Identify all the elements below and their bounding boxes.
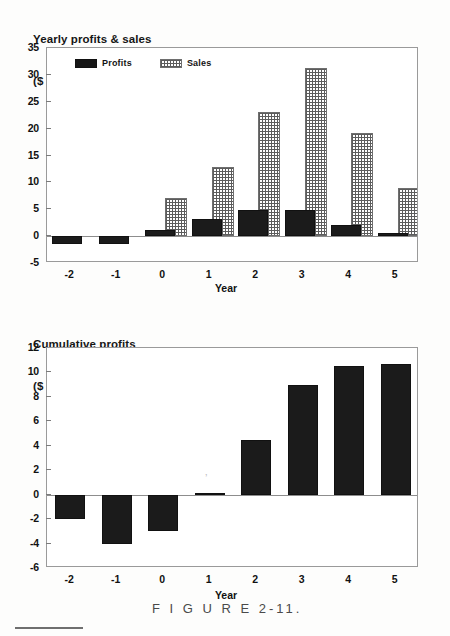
plot-area-yearly bbox=[47, 48, 417, 261]
bar-profits bbox=[148, 495, 178, 532]
plot-area-cumulative: ’ bbox=[47, 348, 417, 566]
y-tick-label: 2 bbox=[6, 463, 39, 475]
y-tick-label: 20 bbox=[6, 122, 39, 134]
y-tick-label: 0 bbox=[6, 488, 39, 500]
y-tick bbox=[46, 101, 51, 102]
x-tick-label: 3 bbox=[282, 573, 322, 585]
bar-profits bbox=[285, 210, 315, 236]
y-tick-label: 10 bbox=[6, 175, 39, 187]
footer-rule bbox=[15, 627, 83, 629]
y-tick-label: -5 bbox=[6, 256, 39, 268]
legend-swatch-sales-icon bbox=[160, 59, 182, 68]
y-tick bbox=[46, 155, 51, 156]
figure-caption: F I G U R E 2-11. bbox=[152, 601, 302, 616]
bar-profits bbox=[238, 210, 268, 236]
y-tick bbox=[46, 181, 51, 182]
y-tick bbox=[46, 371, 51, 372]
y-tick bbox=[46, 543, 51, 544]
y-tick bbox=[46, 208, 51, 209]
y-tick-label: 30 bbox=[6, 68, 39, 80]
y-tick bbox=[46, 128, 51, 129]
y-tick-label: -2 bbox=[6, 512, 39, 524]
bar-sales bbox=[398, 188, 417, 236]
x-tick-label: -1 bbox=[96, 268, 136, 280]
page-smudge-mark: ’ bbox=[205, 472, 207, 484]
legend-item-sales: Sales bbox=[160, 58, 212, 68]
x-axis-title-yearly: Year bbox=[186, 282, 266, 294]
bar-profits bbox=[378, 233, 408, 236]
bar-profits bbox=[192, 219, 222, 236]
x-tick-label: 5 bbox=[375, 268, 415, 280]
bar-profits bbox=[241, 440, 271, 495]
legend-yearly: Profits Sales bbox=[75, 58, 211, 68]
x-tick-label: 1 bbox=[189, 268, 229, 280]
y-tick-label: 12 bbox=[6, 341, 39, 353]
x-tick-label: -2 bbox=[49, 268, 89, 280]
bar-sales bbox=[351, 133, 373, 236]
bar-profits bbox=[52, 236, 82, 244]
y-tick bbox=[46, 235, 51, 236]
x-tick-label: 1 bbox=[189, 573, 229, 585]
x-tick-label: 0 bbox=[142, 268, 182, 280]
bar-profits bbox=[145, 230, 175, 236]
y-tick-label: 0 bbox=[6, 229, 39, 241]
y-tick-label: 8 bbox=[6, 390, 39, 402]
y-tick bbox=[46, 469, 51, 470]
y-tick-label: 35 bbox=[6, 41, 39, 53]
plot-frame-yearly bbox=[46, 47, 418, 262]
x-tick-label: 2 bbox=[235, 573, 275, 585]
chart-title-line1: Yearly profits & sales bbox=[33, 32, 152, 46]
y-tick-label: 5 bbox=[6, 202, 39, 214]
bar-profits bbox=[381, 364, 411, 495]
x-tick-label: 3 bbox=[282, 268, 322, 280]
legend-item-profits: Profits bbox=[75, 58, 132, 68]
x-tick-label: 4 bbox=[328, 268, 368, 280]
figure-page: Yearly profits & sales ($ millions) Prof… bbox=[0, 0, 450, 636]
y-tick bbox=[46, 494, 51, 495]
bar-profits bbox=[331, 225, 361, 236]
bar-profits bbox=[99, 236, 129, 244]
legend-swatch-profits-icon bbox=[75, 59, 97, 68]
y-tick-label: -6 bbox=[6, 561, 39, 573]
x-tick-label: -1 bbox=[96, 573, 136, 585]
legend-label-profits: Profits bbox=[102, 58, 132, 68]
x-tick-label: 2 bbox=[235, 268, 275, 280]
y-tick-label: 10 bbox=[6, 365, 39, 377]
bar-profits bbox=[334, 366, 364, 494]
chart-cumulative-profits: Cumulative profits ($ millions) ’ -6-4-2… bbox=[0, 300, 450, 600]
x-tick-label: -2 bbox=[49, 573, 89, 585]
x-tick-label: 5 bbox=[375, 573, 415, 585]
y-tick-label: -4 bbox=[6, 537, 39, 549]
y-tick bbox=[46, 445, 51, 446]
bar-profits bbox=[55, 495, 85, 519]
y-tick bbox=[46, 518, 51, 519]
bar-profits bbox=[195, 493, 225, 495]
y-tick bbox=[46, 420, 51, 421]
y-tick bbox=[46, 396, 51, 397]
plot-frame-cumulative: ’ bbox=[46, 347, 418, 567]
x-tick-label: 4 bbox=[328, 573, 368, 585]
x-axis-title-cumulative: Year bbox=[186, 589, 266, 601]
y-tick bbox=[46, 74, 51, 75]
x-tick-label: 0 bbox=[142, 573, 182, 585]
y-tick-label: 6 bbox=[6, 414, 39, 426]
bar-profits bbox=[102, 495, 132, 544]
y-tick-label: 4 bbox=[6, 439, 39, 451]
y-tick-label: 25 bbox=[6, 95, 39, 107]
y-tick-label: 15 bbox=[6, 149, 39, 161]
chart-yearly-profits-sales: Yearly profits & sales ($ millions) Prof… bbox=[0, 0, 450, 300]
legend-label-sales: Sales bbox=[187, 58, 212, 68]
bar-profits bbox=[288, 385, 318, 495]
